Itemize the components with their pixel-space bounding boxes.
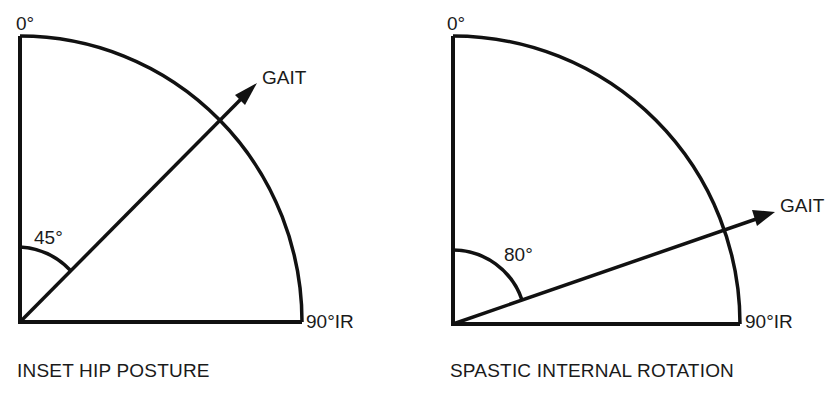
right-top-angle-label: 0° bbox=[447, 14, 465, 33]
left-caption: INSET HIP POSTURE bbox=[17, 361, 210, 380]
right-caption: SPASTIC INTERNAL ROTATION bbox=[450, 361, 734, 380]
right-gait-label: GAIT bbox=[780, 196, 824, 215]
left-quadrant bbox=[20, 36, 302, 322]
left-angle-label: 45° bbox=[34, 228, 63, 247]
right-right-angle-label: 90°IR bbox=[745, 312, 793, 331]
right-quadrant bbox=[453, 36, 775, 324]
diagram-canvas bbox=[0, 0, 827, 393]
left-right-angle-label: 90°IR bbox=[306, 312, 354, 331]
left-gait-label: GAIT bbox=[262, 68, 306, 87]
left-top-angle-label: 0° bbox=[16, 14, 34, 33]
right-angle-label: 80° bbox=[504, 245, 533, 264]
